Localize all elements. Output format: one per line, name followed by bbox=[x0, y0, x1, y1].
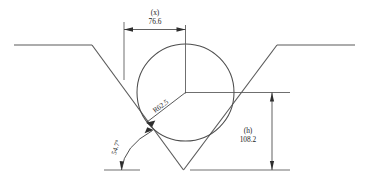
vgroove-profile bbox=[14, 45, 355, 170]
height-top-arrowhead bbox=[270, 93, 274, 102]
centerlines bbox=[186, 25, 291, 94]
drawing-canvas: (x) 76.6 (h) 108.2 R62.5 54.7° bbox=[0, 0, 365, 185]
width-dimension bbox=[124, 22, 186, 80]
height-bottom-arrowhead bbox=[270, 161, 274, 170]
width-value-text: 76.6 bbox=[149, 17, 162, 26]
left-flank-line bbox=[92, 45, 184, 170]
angle-arc bbox=[122, 131, 153, 171]
width-left-arrowhead bbox=[124, 27, 133, 31]
height-dimension bbox=[190, 93, 290, 171]
height-value-text: 108.2 bbox=[240, 135, 257, 144]
width-right-arrowhead bbox=[177, 27, 186, 31]
angle-value-text: 54.7° bbox=[110, 139, 122, 156]
height-label-text: (h) bbox=[244, 126, 253, 135]
radius-value-text: R62.5 bbox=[151, 98, 170, 115]
right-flank-line bbox=[184, 45, 278, 170]
technical-drawing: (x) 76.6 (h) 108.2 R62.5 54.7° bbox=[0, 0, 365, 185]
width-label-text: (x) bbox=[151, 8, 160, 17]
